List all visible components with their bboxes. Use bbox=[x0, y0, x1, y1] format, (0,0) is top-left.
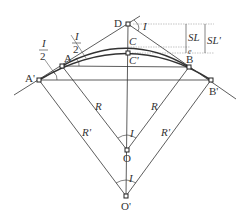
radius-label-right: R bbox=[150, 100, 158, 112]
dimension-label-SL-prime: SL' bbox=[207, 34, 222, 46]
radius-ApOp bbox=[39, 80, 126, 196]
label-O-prime: O' bbox=[121, 200, 131, 212]
label-C-prime: C' bbox=[129, 54, 139, 66]
point-A-marker bbox=[60, 64, 64, 68]
dimension-label-e: e bbox=[188, 47, 192, 56]
radius-BO bbox=[127, 67, 189, 150]
dimension-label-SL: SL bbox=[188, 31, 200, 43]
label-O: O bbox=[123, 152, 131, 164]
point-Ap-marker bbox=[37, 78, 41, 82]
leader-half-angle-left bbox=[45, 60, 55, 74]
half-angle-top-denominator: 2 bbox=[73, 43, 79, 55]
label-A-prime: A' bbox=[25, 72, 35, 84]
radius-prime-label-left: R' bbox=[81, 126, 92, 138]
half-angle-left-denominator: 2 bbox=[40, 50, 46, 62]
radius-label-left: R bbox=[94, 100, 102, 112]
radius-BpOp bbox=[126, 80, 211, 196]
label-A: A bbox=[64, 52, 72, 64]
label-C: C bbox=[129, 35, 137, 47]
label-B-prime: B' bbox=[209, 85, 218, 97]
radius-prime-label-right: R' bbox=[160, 126, 171, 138]
angle-label-D: I bbox=[142, 20, 148, 32]
angle-label-O-prime: I bbox=[128, 172, 134, 184]
point-D-marker bbox=[126, 22, 130, 26]
chord-AB bbox=[62, 66, 189, 67]
curve-geometry-diagram: D A A' B B' C C' O O' I 2 I 2 I I I R R … bbox=[0, 0, 246, 219]
label-D: D bbox=[114, 17, 122, 29]
point-B-marker bbox=[187, 65, 191, 69]
angle-arc-D bbox=[134, 20, 139, 31]
half-angle-top-numerator: I bbox=[74, 30, 80, 42]
half-angle-left-numerator: I bbox=[41, 37, 47, 49]
center-axis bbox=[126, 24, 128, 196]
point-Bp-marker bbox=[209, 78, 213, 82]
point-Op-marker bbox=[124, 194, 128, 198]
